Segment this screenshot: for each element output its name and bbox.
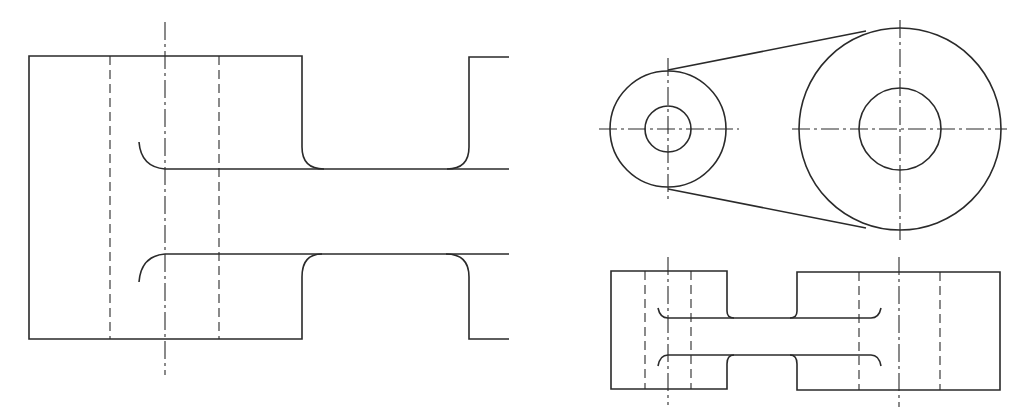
fillet-left-lower — [727, 355, 734, 364]
hook-arc-lower — [139, 254, 165, 282]
hook-left-lower — [658, 355, 668, 366]
hook-right-lower — [871, 355, 881, 366]
hook-arc-upper — [139, 142, 165, 169]
hook-left-upper — [658, 308, 668, 318]
enlarged-view — [29, 22, 509, 375]
drawing-canvas — [0, 0, 1021, 420]
flange-lower-right — [446, 254, 509, 339]
left-block-outline — [611, 271, 727, 389]
top-view — [599, 20, 1007, 240]
fillet-right-upper — [790, 311, 797, 318]
fillet-lower-left — [302, 254, 322, 277]
flange-upper-right — [447, 57, 509, 169]
fillet-left-upper — [727, 311, 734, 318]
tangent-line-lower — [668, 189, 866, 228]
fillet-upper-left — [302, 147, 324, 169]
hook-right-upper — [871, 308, 881, 318]
fillet-right-lower — [790, 355, 797, 364]
front-view — [611, 257, 1000, 407]
